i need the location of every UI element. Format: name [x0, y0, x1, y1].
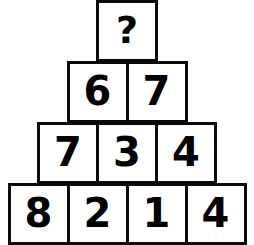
pyramid-cell-value: 3 [113, 132, 141, 172]
pyramid-cell-r3c1[interactable]: 7 [37, 122, 99, 184]
pyramid-row-1: ? [96, 0, 158, 62]
pyramid-cell-value: 4 [172, 132, 200, 172]
pyramid-cell-value: 1 [143, 193, 171, 233]
pyramid-cell-r2c2[interactable]: 7 [126, 61, 188, 123]
pyramid-cell-value: 7 [143, 71, 171, 111]
number-pyramid-puzzle: ? 6 7 7 3 4 8 [0, 0, 254, 245]
pyramid-cell-r4c2[interactable]: 2 [67, 183, 129, 245]
pyramid-cell-r2c1[interactable]: 6 [67, 61, 129, 123]
pyramid-cell-r1c1[interactable]: ? [96, 0, 158, 62]
pyramid-cell-value: 8 [25, 193, 53, 233]
pyramid-cell-r4c1[interactable]: 8 [8, 183, 70, 245]
pyramid-cell-r3c3[interactable]: 4 [155, 122, 217, 184]
pyramid-row-4: 8 2 1 4 [8, 183, 247, 245]
pyramid-cell-value: 4 [202, 193, 230, 233]
pyramid-grid: ? 6 7 7 3 4 8 [0, 0, 254, 245]
pyramid-row-2: 6 7 [67, 61, 188, 123]
pyramid-cell-value: 2 [84, 193, 112, 233]
pyramid-cell-r4c4[interactable]: 4 [185, 183, 247, 245]
pyramid-cell-value: 7 [54, 132, 82, 172]
pyramid-cell-value: 6 [84, 71, 112, 111]
pyramid-cell-value: ? [116, 11, 138, 49]
pyramid-row-3: 7 3 4 [37, 122, 217, 184]
pyramid-cell-r3c2[interactable]: 3 [96, 122, 158, 184]
pyramid-cell-r4c3[interactable]: 1 [126, 183, 188, 245]
